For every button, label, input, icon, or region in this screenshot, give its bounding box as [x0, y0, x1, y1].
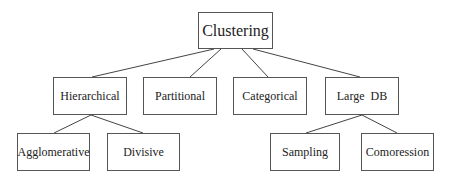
clustering-taxonomy-diagram: Clustering Hierarchical Partitional Cate…: [0, 0, 451, 180]
node-sampling: Sampling: [270, 133, 340, 171]
node-hierarchical: Hierarchical: [53, 77, 127, 115]
edge-hierarchical-divisive: [91, 115, 143, 133]
node-divisive: Divisive: [107, 133, 180, 171]
node-clustering: Clustering: [198, 12, 273, 49]
node-agglomerative: Agglomerative: [17, 133, 90, 171]
edge-hierarchical-agglomerative: [54, 115, 91, 133]
edge-clustering-categorical: [242, 49, 268, 77]
edge-clustering-large-db: [253, 49, 360, 77]
edge-clustering-hierarchical: [92, 49, 214, 77]
node-partitional: Partitional: [143, 77, 217, 115]
node-large-db: Large DB: [325, 77, 399, 115]
edge-large-db-comoression: [362, 115, 397, 133]
node-categorical: Categorical: [233, 77, 307, 115]
node-comoression: Comoression: [361, 133, 434, 171]
edge-large-db-sampling: [306, 115, 362, 133]
